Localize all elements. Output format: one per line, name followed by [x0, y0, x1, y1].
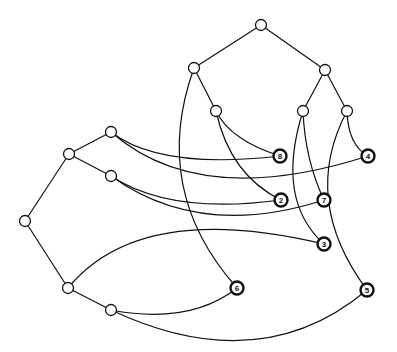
- node: [211, 106, 222, 117]
- leaf-label: 6: [235, 284, 240, 293]
- leaf-node-8: 8: [274, 150, 287, 163]
- leaf-node-5: 5: [361, 284, 374, 297]
- node: [189, 63, 200, 74]
- node: [64, 149, 75, 160]
- leaf-node-2: 2: [275, 194, 288, 207]
- leaf-label: 4: [366, 152, 371, 161]
- leaf-node-7: 7: [318, 194, 331, 207]
- leaf-label: 8: [278, 152, 283, 161]
- node: [106, 171, 117, 182]
- node: [320, 65, 331, 76]
- internal-nodes: [20, 20, 353, 316]
- leaf-node-6: 6: [231, 282, 244, 295]
- leaf-node-3: 3: [318, 238, 331, 251]
- leaf-node-4: 4: [362, 150, 375, 163]
- node: [106, 127, 117, 138]
- leaf-label: 2: [279, 196, 284, 205]
- node: [298, 106, 309, 117]
- leaf-nodes: 8 4 2 7 3 6 5: [231, 150, 375, 297]
- tree-diagram: 8 4 2 7 3 6 5: [0, 0, 397, 352]
- node: [106, 305, 117, 316]
- node: [256, 20, 267, 31]
- node: [20, 216, 31, 227]
- leaf-label: 7: [322, 196, 327, 205]
- leaf-label: 3: [322, 240, 327, 249]
- node: [342, 106, 353, 117]
- leaf-label: 5: [365, 286, 370, 295]
- node: [63, 283, 74, 294]
